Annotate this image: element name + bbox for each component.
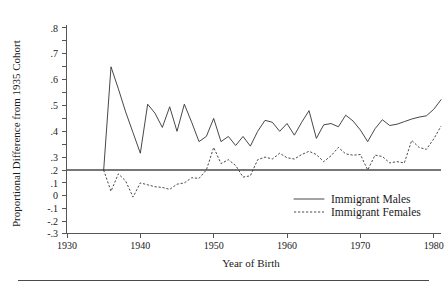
- y-tick-label: .2: [51, 165, 59, 176]
- y-tick-label: -.1: [47, 203, 58, 214]
- y-axis-title: Proportional Difference from 1935 Cohort: [10, 40, 22, 227]
- y-tick-label: 0: [53, 190, 58, 201]
- chart-figure: Proportional Difference from 1935 Cohort…: [0, 0, 447, 287]
- y-tick-label: .1: [51, 178, 59, 189]
- y-tick-label: .6: [51, 74, 59, 85]
- y-tick-label: -.2: [47, 216, 58, 227]
- line-chart: Proportional Difference from 1935 Cohort…: [0, 0, 447, 287]
- y-tick-label: .7: [51, 48, 59, 59]
- y-tick-label: .8: [51, 23, 59, 34]
- x-tick-label: 1930: [57, 240, 77, 251]
- y-tick-label: .3: [51, 152, 59, 163]
- y-tick-label: -.3: [47, 228, 58, 239]
- x-tick-label: 1940: [130, 240, 150, 251]
- y-tick-label: .5: [51, 100, 59, 111]
- y-tick-label: .4: [51, 126, 59, 137]
- legend-label-immigrant-males: Immigrant Males: [331, 193, 411, 206]
- x-tick-label: 1980: [424, 240, 444, 251]
- x-tick-label: 1950: [204, 240, 224, 251]
- x-tick-label: 1970: [350, 240, 370, 251]
- legend-label-immigrant-females: Immigrant Females: [331, 206, 421, 219]
- x-axis-title: Year of Birth: [222, 257, 280, 269]
- x-tick-label: 1960: [277, 240, 297, 251]
